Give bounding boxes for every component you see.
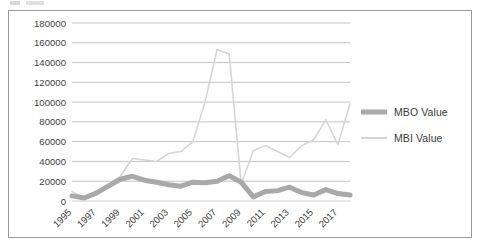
legend-swatch-mbo-value	[361, 106, 387, 118]
y-axis-tick-label: 180000	[34, 18, 66, 29]
y-axis-tick-label: 0	[61, 196, 66, 207]
x-axis-tick-label: 1995	[51, 207, 74, 230]
x-axis-tick-label: 1997	[75, 207, 98, 230]
x-axis-tick-label: 2001	[123, 207, 146, 230]
x-axis-tick-label: 2007	[196, 207, 219, 230]
series-line-mbi-value	[72, 50, 350, 198]
legend-swatch-mbi-value	[361, 132, 387, 144]
y-axis-tick-label: 60000	[39, 136, 66, 147]
x-axis-tick-label: 2005	[171, 207, 194, 230]
x-axis-tick-label: 1999	[99, 207, 122, 230]
y-axis-tick-label: 40000	[39, 156, 66, 167]
y-axis-tick-label: 140000	[34, 57, 66, 68]
y-axis-tick-label: 120000	[34, 77, 66, 88]
legend-item-mbo-value: MBO Value	[361, 99, 471, 125]
x-axis-tick-label: 2017	[316, 207, 339, 230]
y-axis-tick-label: 80000	[39, 116, 66, 127]
y-axis-tick-label: 160000	[34, 37, 66, 48]
legend-item-mbi-value: MBI Value	[361, 125, 471, 151]
legend-label-mbo-value: MBO Value	[394, 106, 448, 118]
x-axis-tick-label: 2003	[147, 207, 170, 230]
x-axis-tick-label: 2013	[268, 207, 291, 230]
legend-line-mbi-value	[361, 137, 387, 139]
legend-line-mbo-value	[361, 110, 387, 115]
x-axis-tick-label: 2015	[292, 207, 315, 230]
chart-frame: 0200004000060000800001000001200001400001…	[8, 10, 472, 238]
scan-artifact-strip	[10, 1, 62, 5]
x-axis-tick-label: 2009	[220, 207, 243, 230]
x-axis-tick-label: 2011	[244, 207, 266, 229]
y-axis-tick-label: 100000	[34, 97, 66, 108]
chart-legend: MBO Value MBI Value	[361, 99, 471, 151]
series-line-mbo-value	[72, 176, 350, 198]
y-axis-tick-label: 20000	[39, 176, 66, 187]
legend-label-mbi-value: MBI Value	[394, 132, 443, 144]
